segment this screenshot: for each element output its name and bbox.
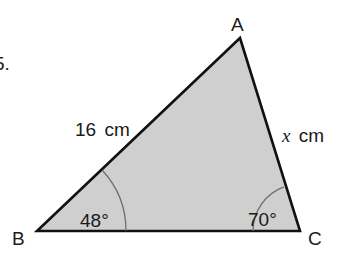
- side-ac-unit: cm: [299, 125, 324, 146]
- side-ab-unit: cm: [104, 119, 129, 140]
- vertex-label-a: A: [231, 14, 244, 35]
- side-label-ac: x cm: [281, 125, 324, 146]
- side-label-ab: 16 cm: [75, 119, 130, 140]
- vertex-label-b: B: [12, 228, 25, 249]
- angle-label-b: 48°: [80, 210, 109, 231]
- triangle-diagram: 5. A B C 16 cm x cm 48° 70°: [0, 0, 347, 260]
- vertex-label-c: C: [308, 228, 322, 249]
- question-number-fragment: 5.: [0, 53, 10, 74]
- side-ab-value: 16: [75, 119, 96, 140]
- side-ac-variable: x: [281, 125, 291, 146]
- angle-label-c: 70°: [248, 209, 277, 230]
